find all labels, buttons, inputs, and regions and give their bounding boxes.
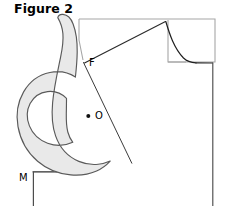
point-label-m: M [19,172,28,183]
figure-diagram: F O M [0,0,228,206]
dart-guide-line [84,63,132,164]
point-label-f: F [89,57,95,68]
point-label-o: O [95,110,103,121]
figure-container: Figure 2 [0,0,228,206]
shoulder-seam-line [85,22,166,64]
neckline-curve [166,22,213,64]
point-marker-o [86,114,90,118]
scroll-hook-motif [17,14,110,175]
